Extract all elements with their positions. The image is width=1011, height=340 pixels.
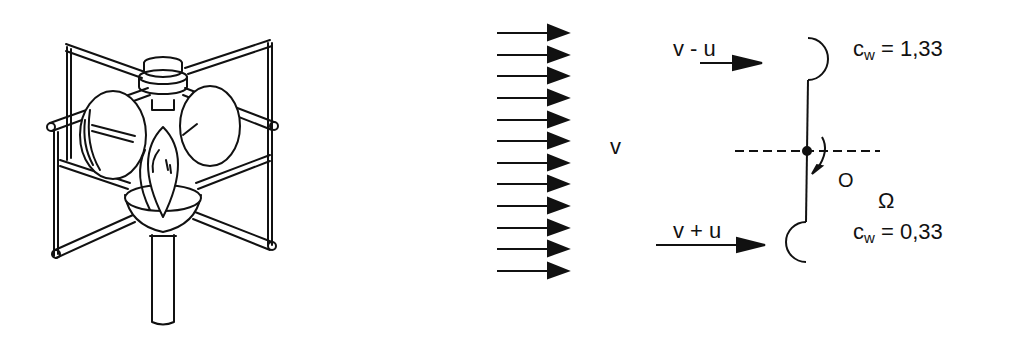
rotor-illustration: [40, 30, 300, 330]
cw-symbol: c: [853, 36, 864, 61]
top-drag-coefficient: cw = 1,33: [853, 38, 943, 60]
bottom-flow-label: v + u: [673, 220, 721, 242]
cw-subscript: w: [864, 46, 875, 63]
flow-arrows-panel: [490, 22, 580, 282]
cw-symbol: c: [853, 219, 864, 244]
velocity-label: v: [610, 136, 621, 158]
flow-arrows-icon: [490, 22, 580, 282]
top-flow-label: v - u: [673, 38, 716, 60]
cw-value: = 1,33: [881, 36, 943, 61]
bottom-drag-coefficient: cw = 0,33: [853, 221, 943, 243]
cw-value: = 0,33: [881, 219, 943, 244]
rotation-label: Ω: [878, 190, 894, 212]
cw-subscript: w: [864, 229, 875, 246]
center-label: O: [838, 170, 854, 190]
cup-rotor-icon: [40, 30, 300, 330]
